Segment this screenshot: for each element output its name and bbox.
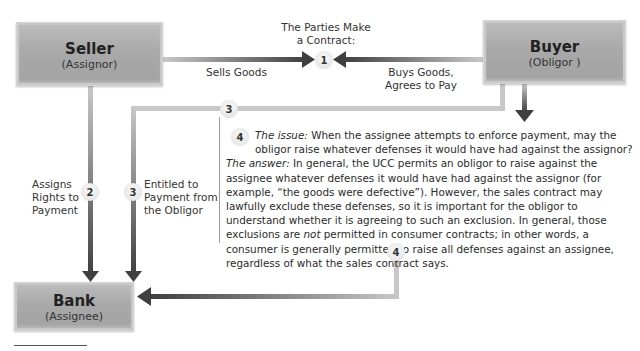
seller-title: Seller <box>17 40 162 58</box>
buyer-node: Buyer (Obligor ) <box>483 20 626 84</box>
bank-subtitle: (Assignee) <box>15 310 133 324</box>
buys-goods-line1: Buys Goods, <box>378 66 464 79</box>
issue-text: When the assignee attempts to enforce pa… <box>255 129 633 155</box>
issue-paragraph: The issue: When the assignee attempts to… <box>219 128 639 156</box>
step1-heading-line2: a Contract: <box>268 34 384 47</box>
step3-top-badge: 3 <box>220 100 238 118</box>
step2-badge: 2 <box>81 183 99 201</box>
assigns-rights-line1: Assigns <box>32 178 79 191</box>
answer-label: The answer: <box>226 157 290 169</box>
answer-emphasis: not <box>303 228 320 240</box>
answer-paragraph: The answer: In general, the UCC permits … <box>219 156 634 270</box>
bank-title: Bank <box>15 292 133 310</box>
entitled-payment-line2: Payment from <box>144 191 218 204</box>
buyer-subtitle: (Obligor ) <box>484 56 625 70</box>
assigns-rights-line2: Rights to <box>32 191 79 204</box>
buys-goods-line2: Agrees to Pay <box>378 79 464 92</box>
step4-bank-badge: 4 <box>387 243 405 261</box>
buyer-to-issue-arrow <box>515 84 534 122</box>
sells-goods-label: Sells Goods <box>206 66 267 79</box>
step1-heading-line1: The Parties Make <box>268 21 384 34</box>
buyer-title: Buyer <box>484 38 625 56</box>
issue-label: The issue: <box>255 129 308 141</box>
step1-heading: The Parties Make a Contract: <box>268 21 384 47</box>
entitled-payment-line3: the Obligor <box>144 204 218 217</box>
bank-node: Bank (Assignee) <box>14 282 134 331</box>
seller-node: Seller (Assignor) <box>16 22 163 86</box>
step3-side-badge: 3 <box>124 183 142 201</box>
issue-text-block: The issue: When the assignee attempts to… <box>219 128 639 270</box>
entitled-payment-label: Entitled to Payment from the Obligor <box>144 178 218 217</box>
entitled-payment-line1: Entitled to <box>144 178 218 191</box>
step1-badge: 1 <box>315 51 333 69</box>
assigns-rights-label: Assigns Rights to Payment <box>32 178 79 217</box>
seller-subtitle: (Assignor) <box>17 58 162 72</box>
footnote-rule <box>14 345 87 346</box>
buys-goods-label: Buys Goods, Agrees to Pay <box>378 66 464 92</box>
assigns-rights-line3: Payment <box>32 204 79 217</box>
